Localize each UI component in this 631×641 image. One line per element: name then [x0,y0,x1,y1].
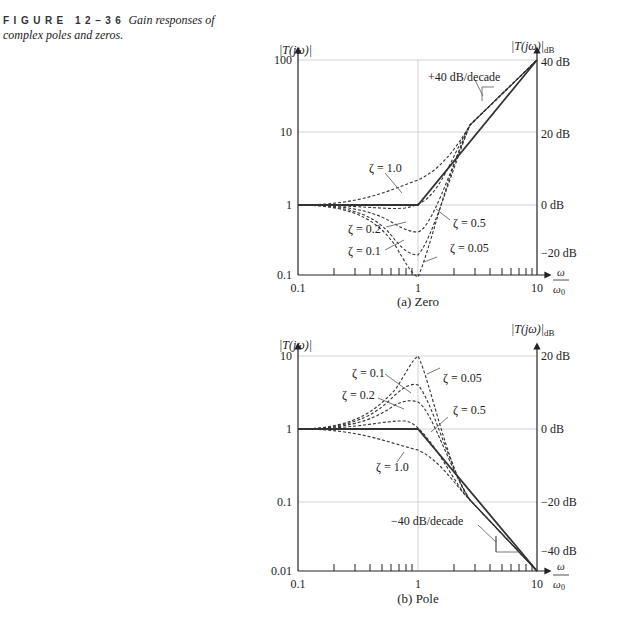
zeta-0.2-label: ζ = 0.2 [342,388,375,402]
zeta-0.05-label: ζ = 0.05 [443,371,482,385]
grid [298,60,537,275]
chart-zero: |T(jω)| |T(jω)|dB 100 10 1 0.1 40 dB 20 … [274,39,577,309]
db-0: 0 dB [541,422,564,436]
db-minus-40: −40 dB [541,544,577,558]
slope-label: +40 dB/decade [428,70,500,84]
curve-zeta-1.0 [298,429,537,571]
xlabel-den: ω0 [553,578,565,592]
zeta-0.05-label: ζ = 0.05 [450,241,489,255]
ylabel-right: |T(jω)|dB [511,322,555,338]
zeta-0.1-label: ζ = 0.1 [348,244,381,258]
db-minus-20: −20 dB [541,495,577,509]
xtick-0.1: 0.1 [291,281,306,295]
curve-zeta-1.0 [298,60,537,205]
xlabel-num: ω [557,266,565,278]
db-20: 20 dB [541,349,570,363]
ylabel-right: |T(jω)|dB [511,39,555,55]
leader-lines [385,173,450,262]
x-ticks [334,268,532,275]
ytick-100: 100 [274,53,292,67]
xtick-0.1: 0.1 [291,577,306,591]
db-minus-20: −20 dB [541,246,577,260]
xtick-10: 10 [531,281,543,295]
zeta-1.0-label: ζ = 1.0 [369,161,402,175]
x-ticks [334,564,532,571]
zeta-0.2-label: ζ = 0.2 [348,222,381,236]
chart-title-zero: (a) Zero [397,294,439,309]
chart-pole: |T(jω)| |T(jω)|dB 10 1 0.1 0.01 20 dB 0 … [271,322,577,606]
xlabel-den: ω0 [553,283,565,297]
db-40: 40 dB [541,55,570,69]
xtick-10: 10 [531,577,543,591]
zeta-1.0-label: ζ = 1.0 [376,460,409,474]
ytick-0.1: 0.1 [277,268,292,282]
ytick-10: 10 [280,125,292,139]
chart-title-pole: (b) Pole [397,591,439,606]
zeta-curves [298,356,537,571]
ytick-0.01: 0.01 [271,564,292,578]
ytick-1: 1 [286,198,292,212]
slope-triangle [482,87,494,101]
bode-gain-charts: |T(jω)| |T(jω)|dB 100 10 1 0.1 40 dB 20 … [0,0,631,641]
xtick-1: 1 [415,281,421,295]
db-20: 20 dB [541,127,570,141]
xtick-1: 1 [415,577,421,591]
asymptote [298,60,537,205]
ytick-10: 10 [280,349,292,363]
xlabel-num: ω [557,560,565,572]
ytick-1: 1 [286,422,292,436]
grid [298,356,537,571]
ytick-0.1: 0.1 [277,495,292,509]
db-0: 0 dB [541,198,564,212]
zeta-0.5-label: ζ = 0.5 [453,403,486,417]
zeta-0.1-label: ζ = 0.1 [352,366,385,380]
zeta-0.5-label: ζ = 0.5 [453,216,486,230]
slope-label: −40 dB/decade [391,514,463,528]
zeta-curves [298,60,537,277]
